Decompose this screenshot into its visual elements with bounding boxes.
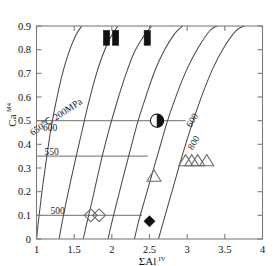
curve-label-600-left: 600 (43, 123, 58, 133)
y-axis-title: CaM4 (5, 102, 18, 126)
x-tick-label-4: 4 (260, 244, 266, 255)
y-tick-label-0.4: 0.4 (18, 139, 32, 150)
curve-label-550: 550 (44, 147, 59, 157)
isotherm-scatter-chart: 11.522.533.54 00.10.20.30.40.50.60.70.80… (0, 0, 276, 266)
filled-bars-top-point-2 (144, 30, 150, 45)
curve-label-500: 500 (50, 206, 65, 216)
y-tick-label-0: 0 (26, 234, 31, 245)
x-tick-label-1: 1 (34, 244, 39, 255)
x-axis-title-superscript: IV (159, 255, 166, 262)
x-tick-label-3: 3 (185, 244, 190, 255)
x-tick-label-2.5: 2.5 (143, 244, 156, 255)
x-axis-title: ΣAlIV (139, 255, 166, 266)
y-tick-label-0.1: 0.1 (18, 210, 31, 221)
y-tick-label-0.8: 0.8 (18, 44, 31, 55)
y-tick-label-0.5: 0.5 (18, 115, 31, 126)
y-tick-label-0.3: 0.3 (18, 163, 31, 174)
x-tick-label-3.5: 3.5 (218, 244, 231, 255)
x-tick-labels-group: 11.522.533.54 (34, 244, 266, 255)
y-tick-label-0.9: 0.9 (18, 21, 31, 32)
half-filled-circle-point-0 (150, 114, 163, 127)
y-axis-title-superscript: M4 (5, 102, 12, 112)
filled-bars-top-point-0 (103, 30, 109, 45)
x-tick-label-1.5: 1.5 (68, 244, 81, 255)
y-tick-label-0.7: 0.7 (18, 68, 31, 79)
y-axis-title-text: Ca (6, 114, 18, 126)
filled-bars-top-point-1 (113, 30, 119, 45)
y-tick-label-0.6: 0.6 (18, 92, 31, 103)
x-tick-label-2: 2 (109, 244, 114, 255)
x-axis-title-text: ΣAl (139, 255, 156, 266)
chart-figure: 11.522.533.54 00.10.20.30.40.50.60.70.80… (0, 0, 276, 266)
y-tick-label-0.2: 0.2 (18, 186, 31, 197)
plot-background (37, 26, 263, 239)
